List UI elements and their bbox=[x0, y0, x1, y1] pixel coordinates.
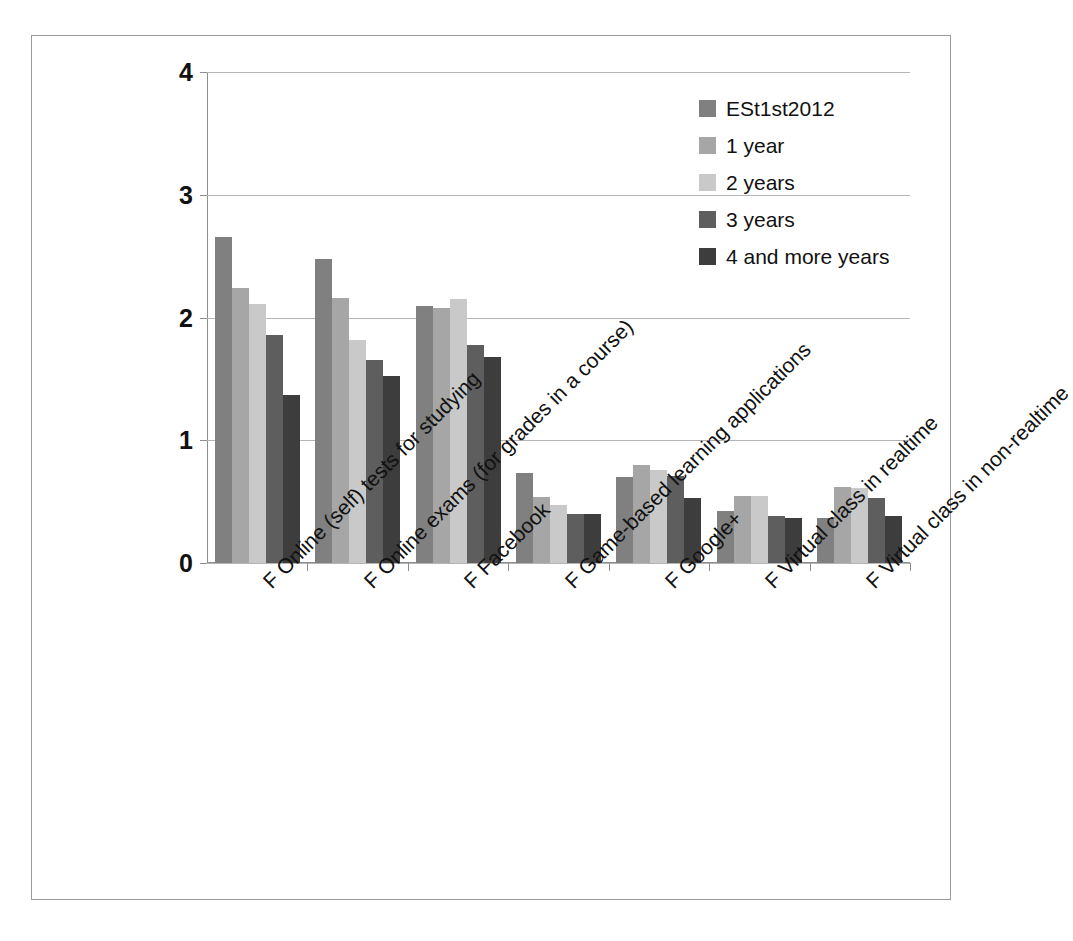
bar bbox=[467, 345, 484, 563]
bar bbox=[533, 497, 550, 563]
bar bbox=[633, 465, 650, 563]
y-tick-mark bbox=[200, 563, 207, 564]
x-tick-mark bbox=[810, 563, 811, 571]
bar bbox=[315, 259, 332, 563]
x-tick-mark bbox=[609, 563, 610, 571]
gridline bbox=[207, 563, 910, 564]
bar bbox=[751, 496, 768, 564]
legend-label: 3 years bbox=[726, 209, 795, 230]
bar-group bbox=[408, 72, 508, 563]
bar bbox=[785, 518, 802, 563]
legend-item[interactable]: 2 years bbox=[699, 172, 889, 193]
bar bbox=[232, 288, 249, 563]
legend-item[interactable]: ESt1st2012 bbox=[699, 98, 889, 119]
legend-swatch-icon bbox=[699, 211, 716, 228]
x-tick-mark bbox=[307, 563, 308, 571]
legend-swatch-icon bbox=[699, 248, 716, 265]
legend-swatch-icon bbox=[699, 137, 716, 154]
bar-group bbox=[508, 72, 608, 563]
bar bbox=[366, 360, 383, 563]
bar bbox=[332, 298, 349, 563]
bar bbox=[550, 505, 567, 563]
bar bbox=[684, 498, 701, 563]
bar bbox=[516, 473, 533, 563]
bar-group bbox=[609, 72, 709, 563]
y-tick-label: 4 bbox=[179, 60, 193, 85]
bar bbox=[433, 308, 450, 563]
legend-swatch-icon bbox=[699, 100, 716, 117]
bar bbox=[768, 516, 785, 563]
bar bbox=[734, 496, 751, 564]
y-tick-label: 1 bbox=[179, 428, 193, 453]
bar bbox=[416, 306, 433, 563]
legend-swatch-icon bbox=[699, 174, 716, 191]
x-tick-mark bbox=[709, 563, 710, 571]
y-tick-label: 0 bbox=[179, 551, 193, 576]
y-tick-mark bbox=[200, 195, 207, 196]
bar-group bbox=[307, 72, 407, 563]
chart-figure: 01234 ESt1st20121 year2 years3 years4 an… bbox=[31, 35, 951, 900]
x-tick-mark bbox=[508, 563, 509, 571]
legend-label: ESt1st2012 bbox=[726, 98, 835, 119]
bar bbox=[817, 518, 834, 563]
bar bbox=[283, 395, 300, 563]
legend-item[interactable]: 4 and more years bbox=[699, 246, 889, 267]
bar bbox=[266, 335, 283, 563]
bar bbox=[249, 304, 266, 563]
bar bbox=[484, 357, 501, 563]
y-tick-mark bbox=[200, 318, 207, 319]
bar-group bbox=[207, 72, 307, 563]
legend-label: 1 year bbox=[726, 135, 784, 156]
bar bbox=[717, 511, 734, 563]
bar bbox=[383, 376, 400, 563]
bar bbox=[584, 514, 601, 563]
bar bbox=[667, 476, 684, 563]
x-tick-mark bbox=[408, 563, 409, 571]
bar bbox=[650, 470, 667, 563]
y-tick-label: 3 bbox=[179, 182, 193, 207]
legend-label: 2 years bbox=[726, 172, 795, 193]
bar bbox=[349, 340, 366, 563]
bar bbox=[215, 237, 232, 564]
y-tick-mark bbox=[200, 440, 207, 441]
y-tick-mark bbox=[200, 72, 207, 73]
bar bbox=[567, 514, 584, 563]
x-tick-mark bbox=[910, 563, 911, 571]
legend-label: 4 and more years bbox=[726, 246, 889, 267]
bar bbox=[868, 498, 885, 563]
bar bbox=[851, 488, 868, 563]
bar bbox=[834, 487, 851, 563]
y-tick-label: 2 bbox=[179, 305, 193, 330]
legend-item[interactable]: 1 year bbox=[699, 135, 889, 156]
bar bbox=[885, 516, 902, 563]
bar bbox=[616, 477, 633, 563]
legend-item[interactable]: 3 years bbox=[699, 209, 889, 230]
bar bbox=[450, 299, 467, 563]
chart-legend: ESt1st20121 year2 years3 years4 and more… bbox=[699, 98, 889, 267]
